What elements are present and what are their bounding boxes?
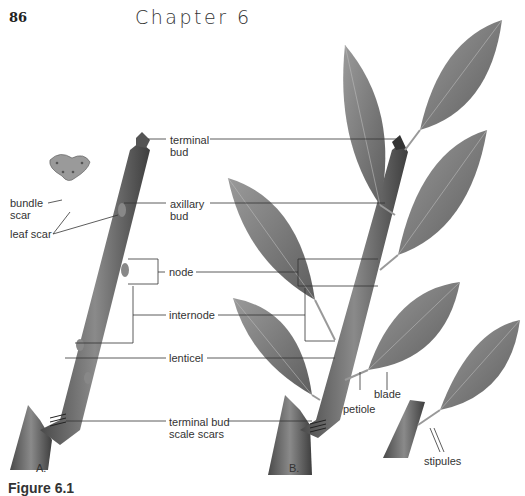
label-leaf-scar: leaf scar bbox=[10, 228, 52, 240]
figure-caption: Figure 6.1 bbox=[8, 480, 74, 496]
label-lenticel: lenticel bbox=[169, 352, 203, 364]
label-stipules: stipules bbox=[424, 455, 461, 467]
label-node: node bbox=[169, 266, 193, 278]
terminal-bud-b bbox=[392, 135, 406, 150]
label-bundle-scar: bundle scar bbox=[10, 197, 43, 221]
label-terminal-bud-scale-scars: terminal bud scale scars bbox=[169, 416, 230, 440]
stem-stipule bbox=[383, 400, 425, 458]
axillary-bud-a bbox=[118, 203, 126, 217]
label-axillary-bud: axillary bud bbox=[170, 198, 204, 222]
label-terminal-bud: terminal bud bbox=[170, 134, 209, 158]
leaf-b1 bbox=[343, 45, 385, 205]
panel-label-a: A. bbox=[36, 462, 46, 474]
panel-label-b: B. bbox=[289, 462, 299, 474]
terminal-bud-a bbox=[136, 132, 150, 148]
stem-a bbox=[40, 142, 150, 445]
node-bud-a3 bbox=[84, 372, 92, 384]
twig-a bbox=[10, 132, 150, 470]
leaf-scar-inset bbox=[50, 154, 90, 180]
label-petiole: petiole bbox=[343, 403, 375, 415]
trunk-a bbox=[10, 405, 52, 470]
node-bud-a2 bbox=[76, 339, 84, 351]
label-internode: internode bbox=[169, 309, 215, 321]
label-blade: blade bbox=[374, 388, 401, 400]
node-bud-a1 bbox=[121, 263, 129, 277]
